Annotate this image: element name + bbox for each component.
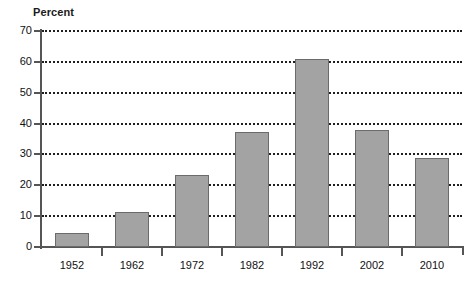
y-axis-tick — [34, 61, 41, 63]
x-axis-label: 1952 — [42, 259, 102, 271]
y-axis-tick — [34, 215, 41, 217]
x-axis-label: 1972 — [162, 259, 222, 271]
x-axis-tick — [101, 247, 103, 256]
bar — [115, 212, 149, 247]
bar — [235, 132, 269, 247]
y-axis-label: 0 — [2, 241, 32, 252]
y-axis-tick — [34, 30, 41, 32]
x-axis-label: 1992 — [282, 259, 342, 271]
y-axis-label: 30 — [2, 148, 32, 159]
x-axis-right-cap — [462, 246, 464, 255]
bar — [55, 233, 89, 247]
y-axis-label: 40 — [2, 118, 32, 129]
y-axis-label: 20 — [2, 179, 32, 190]
x-axis-label: 2002 — [342, 259, 402, 271]
x-axis-tick — [161, 247, 163, 256]
y-axis-tick — [34, 153, 41, 155]
x-axis-label: 1982 — [222, 259, 282, 271]
y-axis-label: 70 — [2, 25, 32, 36]
y-axis-title: Percent — [33, 6, 74, 18]
x-axis-label: 2010 — [402, 259, 462, 271]
bar — [355, 130, 389, 247]
bar — [415, 158, 449, 247]
bar — [295, 59, 329, 247]
y-axis-tick — [34, 92, 41, 94]
x-axis-label: 1962 — [102, 259, 162, 271]
plot-area — [42, 31, 462, 247]
x-axis-tick — [221, 247, 223, 256]
x-axis-tick — [341, 247, 343, 256]
x-axis-tick — [401, 247, 403, 256]
y-axis-label: 10 — [2, 210, 32, 221]
bar-chart: Percent 010203040506070 1952196219721982… — [0, 0, 476, 286]
y-axis-label: 50 — [2, 87, 32, 98]
y-axis-tick — [34, 123, 41, 125]
x-axis-tick — [281, 247, 283, 256]
y-axis-tick — [34, 184, 41, 186]
bar — [175, 175, 209, 248]
y-axis-tick — [34, 246, 41, 248]
y-axis-label: 60 — [2, 56, 32, 67]
